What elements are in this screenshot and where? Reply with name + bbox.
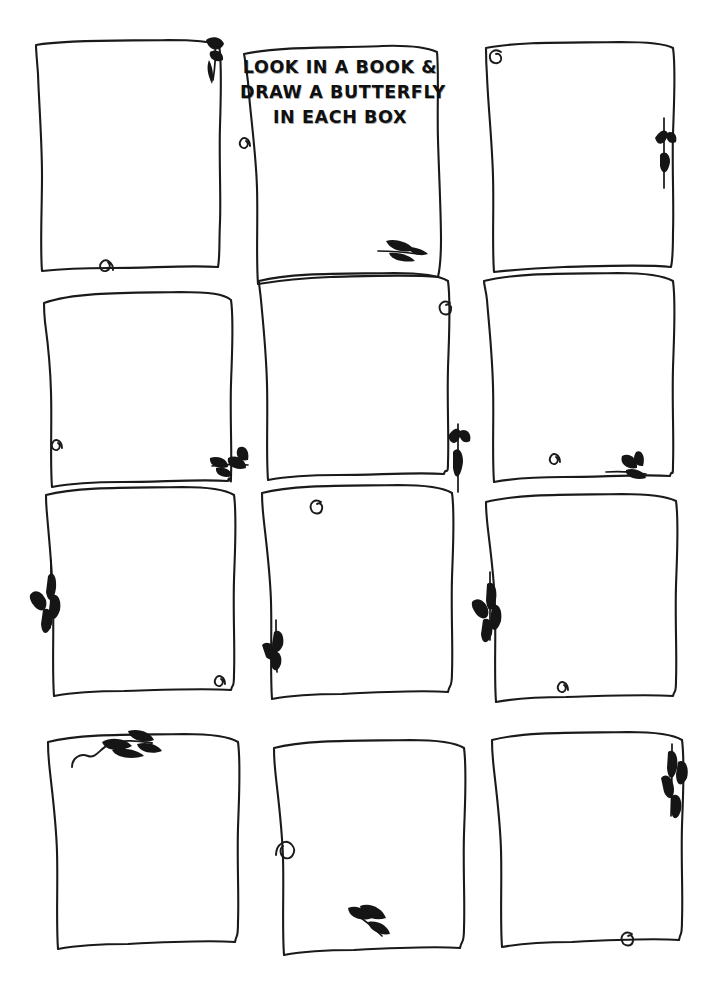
drawing-box-9[interactable] — [486, 494, 678, 702]
leaf-sprig-down-icon — [262, 620, 283, 672]
leaf-sprig-down-icon — [348, 905, 390, 936]
drawing-box-7[interactable] — [46, 487, 236, 696]
leaf-sprig-left-icon — [210, 447, 248, 477]
drawing-box-8[interactable] — [262, 485, 454, 699]
spiral-curl-icon — [558, 682, 568, 692]
spiral-curl-icon — [550, 454, 560, 464]
spiral-curl-icon — [490, 50, 501, 63]
spiral-curl-icon — [215, 676, 225, 686]
spiral-curl-icon — [240, 138, 250, 148]
spiral-curl-icon — [276, 842, 294, 858]
wheat-sprig-down-icon — [30, 560, 61, 633]
drawing-box-6[interactable] — [484, 273, 675, 482]
drawing-box-10[interactable] — [48, 734, 240, 949]
wheat-sprig-down-icon — [472, 572, 502, 642]
leaf-sprig-right-icon — [378, 240, 428, 261]
drawing-box-1[interactable] — [36, 40, 221, 271]
drawing-box-5[interactable] — [259, 273, 450, 480]
leaf-sprig-up-icon — [448, 424, 470, 492]
worksheet-page: LOOK IN A BOOK & DRAW A BUTTERFLY IN EAC… — [0, 0, 724, 990]
spiral-curl-icon — [311, 501, 323, 514]
spiral-curl-icon — [52, 440, 62, 450]
drawing-box-12[interactable] — [492, 732, 684, 947]
drawing-box-3[interactable] — [486, 42, 675, 272]
drawing-box-4[interactable] — [44, 292, 233, 487]
spiral-curl-icon — [100, 260, 113, 271]
worksheet-canvas — [0, 0, 724, 990]
